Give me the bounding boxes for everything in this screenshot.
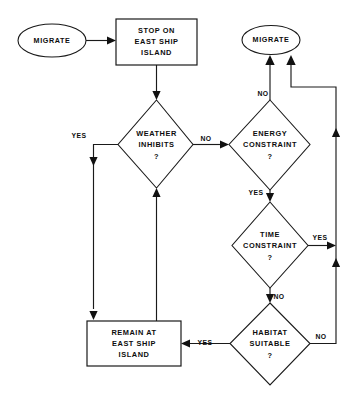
node-start-migrate-label: MIGRATE xyxy=(34,36,71,45)
node-stop-on-east-ship-island[interactable]: STOP ON EAST SHIP ISLAND xyxy=(116,19,197,65)
flowchart-canvas: YES NO NO YES YES NO YES NO MIGRATE STOP… xyxy=(0,0,352,407)
node-habitat-line-1: HABITAT xyxy=(252,328,287,337)
node-energy-constraint[interactable]: ENERGY CONSTRAINT ? xyxy=(229,100,310,190)
edge-label-energy-yes: YES xyxy=(249,189,264,196)
node-energy-line-3: ? xyxy=(267,152,272,161)
node-remain-line-1: REMAIN AT xyxy=(111,328,156,337)
node-habitat-suitable[interactable]: HABITAT SUITABLE ? xyxy=(230,303,310,385)
node-stop-line-3: ISLAND xyxy=(141,48,172,57)
node-remain-line-2: EAST SHIP xyxy=(112,339,156,348)
node-time-line-2: CONSTRAINT xyxy=(243,241,297,250)
edge-label-time-yes: YES xyxy=(313,234,328,241)
edge-label-weather-yes: YES xyxy=(72,132,87,139)
edge-label-habitat-no: NO xyxy=(315,333,326,340)
node-time-constraint[interactable]: TIME CONSTRAINT ? xyxy=(232,202,308,288)
node-stop-line-1: STOP ON xyxy=(138,26,175,35)
node-end-migrate[interactable]: MIGRATE xyxy=(242,26,300,55)
node-stop-line-2: EAST SHIP xyxy=(135,37,179,46)
node-energy-line-2: CONSTRAINT xyxy=(243,140,297,149)
node-end-migrate-label: MIGRATE xyxy=(253,35,290,44)
edge-label-time-no: NO xyxy=(273,293,284,300)
edge-energy-yes-to-time xyxy=(266,190,274,202)
node-weather-line-1: WEATHER xyxy=(136,129,177,138)
node-weather-inhibits[interactable]: WEATHER INHIBITS ? xyxy=(118,100,193,188)
node-time-line-3: ? xyxy=(267,253,272,262)
edge-right-return-bus xyxy=(286,55,340,344)
node-weather-line-3: ? xyxy=(154,152,159,161)
node-habitat-line-2: SUITABLE xyxy=(250,339,291,348)
edge-label-weather-no: NO xyxy=(200,135,211,142)
edge-start-to-stop xyxy=(86,36,116,44)
edge-remain-to-weather xyxy=(152,188,160,321)
edge-label-energy-no: NO xyxy=(257,90,268,97)
node-start-migrate[interactable]: MIGRATE xyxy=(18,24,86,57)
edge-time-yes-to-bus xyxy=(308,241,336,249)
node-time-line-1: TIME xyxy=(260,230,280,239)
node-habitat-line-3: ? xyxy=(267,351,272,360)
edge-stop-to-weather xyxy=(152,65,160,100)
node-weather-line-2: INHIBITS xyxy=(138,140,174,149)
edge-label-habitat-yes: YES xyxy=(198,339,213,346)
node-energy-line-1: ENERGY xyxy=(253,129,288,138)
node-remain-at-east-ship-island[interactable]: REMAIN AT EAST SHIP ISLAND xyxy=(87,321,181,366)
edge-weather-yes-to-remain xyxy=(89,145,118,321)
node-remain-line-3: ISLAND xyxy=(119,350,150,359)
flowchart-svg: YES NO NO YES YES NO YES NO MIGRATE STOP… xyxy=(0,0,352,407)
